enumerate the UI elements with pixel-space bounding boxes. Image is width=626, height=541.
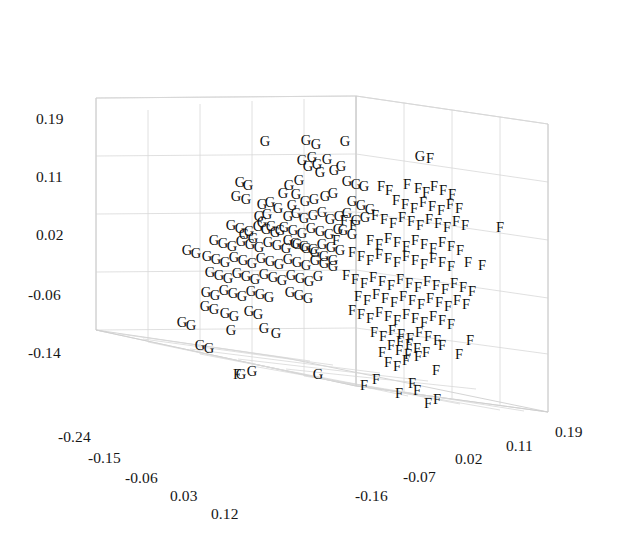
data-point-g: G bbox=[359, 179, 369, 194]
data-point-f: F bbox=[405, 337, 413, 352]
data-point-f: F bbox=[426, 291, 434, 306]
data-point-f: F bbox=[450, 276, 458, 291]
data-point-f: F bbox=[426, 151, 434, 166]
data-point-f: F bbox=[455, 347, 463, 362]
data-point-f: F bbox=[438, 255, 446, 270]
data-point-f: F bbox=[402, 353, 410, 368]
data-point-f: F bbox=[407, 214, 415, 229]
data-point-f: F bbox=[357, 249, 365, 264]
data-point-f: F bbox=[462, 297, 470, 312]
data-point-f: F bbox=[447, 259, 455, 274]
data-point-f: F bbox=[384, 251, 392, 266]
data-point-f: F bbox=[378, 345, 386, 360]
data-point-f: F bbox=[398, 210, 406, 225]
data-point-f: F bbox=[413, 383, 421, 398]
data-point-f: F bbox=[416, 218, 424, 233]
data-point-f: F bbox=[434, 216, 442, 231]
data-point-f: F bbox=[478, 258, 486, 273]
data-point-f: F bbox=[387, 338, 395, 353]
data-point-g: G bbox=[313, 367, 323, 382]
data-point-f: F bbox=[384, 231, 392, 246]
data-point-f: F bbox=[357, 307, 365, 322]
data-point-g: G bbox=[328, 253, 338, 268]
data-point-f: F bbox=[348, 245, 356, 260]
data-point-f: F bbox=[464, 255, 472, 270]
data-point-g: G bbox=[226, 323, 236, 338]
data-point-f: F bbox=[399, 289, 407, 304]
data-point-f: F bbox=[438, 313, 446, 328]
data-point-g: G bbox=[336, 159, 346, 174]
data-point-f: F bbox=[360, 378, 368, 393]
data-point-g: G bbox=[231, 189, 241, 204]
data-point-f: F bbox=[453, 293, 461, 308]
data-point-f: F bbox=[351, 272, 359, 287]
data-point-f: F bbox=[466, 333, 474, 348]
data-point-f: F bbox=[452, 214, 460, 229]
data-point-f: F bbox=[402, 249, 410, 264]
data-point-g: G bbox=[415, 149, 425, 164]
data-point-g: G bbox=[340, 134, 350, 149]
data-point-f: F bbox=[393, 235, 401, 250]
data-point-f: F bbox=[342, 268, 350, 283]
data-point-f: F bbox=[425, 212, 433, 227]
data-point-f: F bbox=[447, 239, 455, 254]
data-point-g: G bbox=[297, 153, 307, 168]
data-point-f: F bbox=[393, 255, 401, 270]
data-point-f: F bbox=[340, 213, 348, 228]
data-point-f: F bbox=[393, 359, 401, 374]
data-point-g: G bbox=[301, 133, 311, 148]
data-point-f: F bbox=[366, 233, 374, 248]
scatter-plot-3d: 0.190.110.02-0.06-0.14-0.24-0.15-0.060.0… bbox=[0, 0, 626, 541]
data-point-f: F bbox=[438, 338, 446, 353]
data-point-f: F bbox=[392, 193, 400, 208]
data-point-g: G bbox=[241, 192, 251, 207]
data-point-g: G bbox=[209, 302, 219, 317]
data-point-f: F bbox=[403, 177, 411, 192]
data-point-f: F bbox=[377, 179, 385, 194]
data-point-g: G bbox=[259, 321, 269, 336]
data-point-g: G bbox=[275, 223, 285, 238]
data-point-f: F bbox=[233, 367, 241, 382]
data-point-f: F bbox=[432, 363, 440, 378]
data-point-g: G bbox=[186, 318, 196, 333]
data-points-layer: GGGGGGGGGGGGGGGGGGGGGGGGGGGGGGGGGGGGGGGG… bbox=[0, 0, 626, 541]
data-point-f: F bbox=[370, 325, 378, 340]
data-point-g: G bbox=[191, 246, 201, 261]
data-point-g: G bbox=[303, 291, 313, 306]
data-point-f: F bbox=[396, 272, 404, 287]
data-point-f: F bbox=[369, 270, 377, 285]
data-point-f: F bbox=[411, 233, 419, 248]
data-point-f: F bbox=[443, 220, 451, 235]
data-point-f: F bbox=[461, 218, 469, 233]
data-point-f: F bbox=[388, 323, 396, 338]
data-point-f: F bbox=[456, 243, 464, 258]
data-point-f: F bbox=[411, 253, 419, 268]
data-point-g: G bbox=[307, 150, 317, 165]
data-point-f: F bbox=[396, 334, 404, 349]
data-point-f: F bbox=[372, 372, 380, 387]
data-point-g: G bbox=[204, 341, 214, 356]
data-point-f: F bbox=[372, 287, 380, 302]
data-point-f: F bbox=[348, 303, 356, 318]
data-point-g: G bbox=[247, 364, 257, 379]
data-point-f: F bbox=[415, 325, 423, 340]
data-point-f: F bbox=[349, 218, 357, 233]
data-point-f: F bbox=[429, 251, 437, 266]
data-point-f: F bbox=[433, 392, 441, 407]
data-point-f: F bbox=[402, 307, 410, 322]
data-point-f: F bbox=[389, 216, 397, 231]
data-point-g: G bbox=[273, 201, 283, 216]
data-point-f: F bbox=[424, 396, 432, 411]
data-point-f: F bbox=[423, 274, 431, 289]
data-point-g: G bbox=[271, 326, 281, 341]
data-point-g: G bbox=[264, 290, 274, 305]
data-point-f: F bbox=[447, 317, 455, 332]
data-point-f: F bbox=[420, 257, 428, 272]
data-point-g: G bbox=[248, 231, 258, 246]
data-point-f: F bbox=[430, 179, 438, 194]
data-point-f: F bbox=[380, 212, 388, 227]
data-point-f: F bbox=[375, 247, 383, 262]
data-point-f: F bbox=[414, 349, 422, 364]
data-point-f: F bbox=[375, 305, 383, 320]
data-point-f: F bbox=[424, 329, 432, 344]
